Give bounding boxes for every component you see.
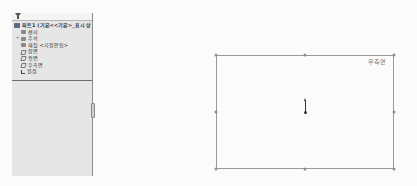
part-icon xyxy=(14,23,20,28)
tree-item-label: 파트1 (기본<<기본>_표시 상 xyxy=(22,22,91,28)
tree-item-label: 재질 <지정안됨> xyxy=(28,42,68,48)
feature-manager-panel: 파트1 (기본<<기본>_표시 상 센서 + 주석 재질 <지정안됨> 정면 윗… xyxy=(12,13,93,176)
material-icon xyxy=(21,43,26,47)
funnel-icon[interactable] xyxy=(15,13,21,17)
sensor-icon xyxy=(21,30,26,34)
tree-item-label: 윗면 xyxy=(28,55,38,61)
panel-divider xyxy=(12,80,92,81)
plane-handle[interactable] xyxy=(393,111,396,114)
plane-handle[interactable] xyxy=(393,54,396,57)
plane-label: 우측면 xyxy=(368,57,386,66)
origin-icon xyxy=(21,70,25,74)
feature-tree: 파트1 (기본<<기본>_표시 상 센서 + 주석 재질 <지정안됨> 정면 윗… xyxy=(12,22,92,75)
plane-handle[interactable] xyxy=(215,54,218,57)
panel-resize-grip[interactable] xyxy=(91,103,95,118)
plane-icon xyxy=(20,50,26,55)
tree-item-label: 우측면 xyxy=(28,62,43,68)
tree-item-origin[interactable]: 원점 xyxy=(12,68,92,75)
filter-bar[interactable] xyxy=(12,13,92,21)
plane-handle[interactable] xyxy=(215,111,218,114)
tree-item-material[interactable]: 재질 <지정안됨> xyxy=(12,42,92,49)
plane-handle[interactable] xyxy=(304,168,307,171)
plane-handle[interactable] xyxy=(304,54,307,57)
tree-item-label: 원점 xyxy=(27,68,37,74)
tree-item-right-plane[interactable]: 우측면 xyxy=(12,62,92,69)
tree-item-label: 센서 xyxy=(28,29,38,35)
tree-item-front-plane[interactable]: 정면 xyxy=(12,48,92,55)
plane-handle[interactable] xyxy=(393,168,396,171)
expand-icon[interactable]: + xyxy=(16,35,19,42)
tree-item-label: 주석 xyxy=(28,35,38,41)
tree-item-label: 정면 xyxy=(28,48,38,54)
plane-icon xyxy=(20,56,26,61)
plane-handle[interactable] xyxy=(215,168,218,171)
tree-item-sensors[interactable]: 센서 xyxy=(12,29,92,36)
plane-icon xyxy=(20,63,26,68)
tree-item-top-plane[interactable]: 윗면 xyxy=(12,55,92,62)
tree-item-part[interactable]: 파트1 (기본<<기본>_표시 상 xyxy=(12,22,92,29)
annotation-icon xyxy=(21,37,26,41)
tree-item-annotations[interactable]: + 주석 xyxy=(12,35,92,42)
origin-axis-icon xyxy=(305,100,306,113)
